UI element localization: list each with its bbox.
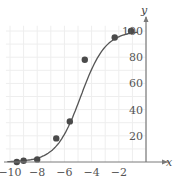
x-tick-label: −6 xyxy=(56,166,72,179)
data-point xyxy=(112,34,118,40)
data-point xyxy=(53,135,59,141)
data-point xyxy=(67,118,73,124)
x-axis-label: x xyxy=(166,156,173,169)
grid-lines xyxy=(6,26,146,162)
y-tick-label: 80 xyxy=(129,51,143,64)
y-tick-label: 100 xyxy=(122,25,143,38)
x-tick-label: −2 xyxy=(111,166,127,179)
x-tick-label: −10 xyxy=(0,166,22,179)
logistic-scatter-chart: −10−8−6−4−220406080100 x y xyxy=(0,0,176,184)
y-tick-label: 20 xyxy=(129,130,143,143)
axes xyxy=(4,16,168,165)
y-tick-label: 40 xyxy=(129,104,143,117)
x-tick-label: −4 xyxy=(83,166,99,179)
y-tick-label: 60 xyxy=(129,77,143,90)
data-point xyxy=(82,57,88,63)
x-tick-label: −8 xyxy=(29,166,45,179)
y-axis-label: y xyxy=(140,4,148,17)
data-point xyxy=(20,157,26,163)
tick-labels: −10−8−6−4−220406080100 xyxy=(0,25,143,179)
